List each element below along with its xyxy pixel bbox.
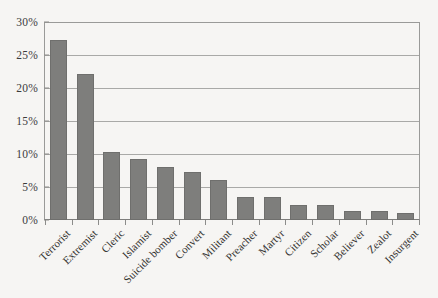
x-axis-tick-mark	[232, 220, 233, 225]
bar-slot	[205, 23, 232, 220]
bar	[371, 211, 388, 220]
bar	[290, 205, 307, 220]
x-axis-tick-mark	[45, 220, 46, 225]
bar-series	[45, 23, 419, 220]
bar-slot	[98, 23, 125, 220]
x-axis-tick-mark	[98, 220, 99, 225]
x-axis-tick-mark	[312, 220, 313, 225]
bar-slot	[72, 23, 99, 220]
x-axis-tick-mark	[392, 220, 393, 225]
bar-chart-figure: 0%5%10%15%20%25%30% TerroristExtremistCl…	[0, 0, 438, 298]
x-axis-tick-mark	[259, 220, 260, 225]
bar	[317, 205, 334, 220]
bar	[397, 213, 414, 220]
x-axis-tick-mark	[152, 220, 153, 225]
bar	[184, 172, 201, 220]
bar	[103, 152, 120, 220]
bar-slot	[152, 23, 179, 220]
bar-slot	[232, 23, 259, 220]
bar-slot	[366, 23, 393, 220]
bar	[50, 40, 67, 220]
x-axis-tick-mark	[125, 220, 126, 225]
bar-slot	[179, 23, 206, 220]
x-axis-category-label: Martyr	[256, 227, 287, 258]
x-axis-tick-mark	[419, 220, 420, 225]
x-axis-tick-mark	[339, 220, 340, 225]
bar-slot	[285, 23, 312, 220]
bar-slot	[45, 23, 72, 220]
bar-slot	[392, 23, 419, 220]
bar	[157, 167, 174, 220]
y-axis-tick-label: 20%	[2, 82, 38, 94]
bar-slot	[339, 23, 366, 220]
x-axis-category-label: Citizen	[282, 227, 313, 258]
y-axis-tick-label: 5%	[2, 181, 38, 193]
bar	[130, 159, 147, 220]
x-axis-tick-mark	[285, 220, 286, 225]
y-axis-tick-label: 25%	[2, 49, 38, 61]
x-axis-tick-mark	[179, 220, 180, 225]
y-axis-tick-label: 30%	[2, 16, 38, 28]
bar-slot	[125, 23, 152, 220]
bar	[210, 180, 227, 220]
bar	[77, 74, 94, 220]
x-axis-category-label: Convert	[172, 227, 206, 261]
bar-slot	[259, 23, 286, 220]
x-axis-tick-mark	[366, 220, 367, 225]
y-axis-tick-label: 0%	[2, 214, 38, 226]
bar	[344, 211, 361, 220]
x-axis-tick-mark	[72, 220, 73, 225]
x-axis-tick-mark	[205, 220, 206, 225]
y-axis-tick-label: 15%	[2, 115, 38, 127]
bar-slot	[312, 23, 339, 220]
bar	[264, 197, 281, 220]
y-axis-tick-label: 10%	[2, 148, 38, 160]
bar	[237, 197, 254, 220]
